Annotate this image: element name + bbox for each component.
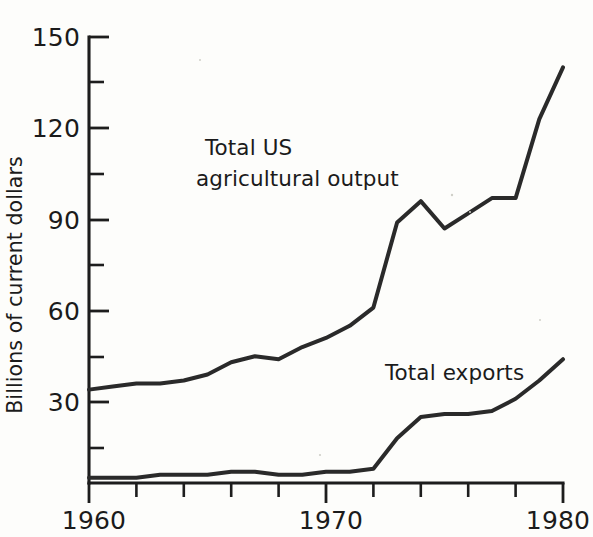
scan-noise [199,59,541,456]
y-axis-minor-ticks [89,82,104,448]
y-tick-label-150: 150 [32,23,80,52]
series-line-total-us-agricultural-output [89,67,563,389]
y-tick-label-90: 90 [48,206,80,235]
y-tick-label-30: 30 [48,388,80,417]
y-axis-title: Billions of current dollars [3,156,27,414]
x-axis-major-ticks [89,483,563,503]
y-tick-label-120: 120 [32,114,80,143]
line-chart: 150 120 90 60 30 1960 1970 1980 Billions… [0,0,593,537]
x-tick-label-1970: 1970 [299,506,363,535]
x-tick-label-1960: 1960 [62,506,126,535]
chart-page: 150 120 90 60 30 1960 1970 1980 Billions… [0,0,593,537]
annotation-agricultural-output-line1: Total US [204,135,292,160]
annotation-agricultural-output-line2: agricultural output [196,166,399,191]
y-tick-label-60: 60 [48,297,80,326]
y-axis-major-ticks [89,37,109,402]
x-tick-label-1980: 1980 [526,506,590,535]
annotation-total-exports: Total exports [384,360,524,385]
